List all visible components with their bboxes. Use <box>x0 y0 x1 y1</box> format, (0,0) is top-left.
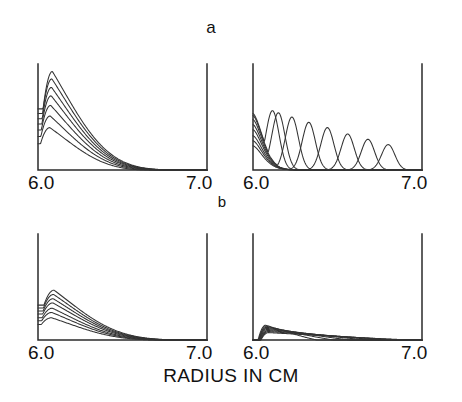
plot-panel-b-left <box>30 228 215 348</box>
panel-frame <box>38 64 207 170</box>
data-curve <box>253 113 422 170</box>
plot-panel-b-right <box>245 228 430 348</box>
data-curve <box>38 290 207 340</box>
data-curve <box>253 117 422 170</box>
xtick-label-a-right-low: 6.0 <box>243 172 269 194</box>
panel-frame <box>253 64 422 170</box>
xtick-label-a-left-high: 7.0 <box>186 172 212 194</box>
data-curve <box>38 79 207 170</box>
xtick-label-a-left-low: 6.0 <box>28 172 54 194</box>
xtick-label-b-right-high: 7.0 <box>401 342 427 364</box>
xtick-label-a-right-high: 7.0 <box>401 172 427 194</box>
xtick-label-b-left-low: 6.0 <box>28 342 54 364</box>
data-curve <box>38 96 207 170</box>
plot-panel-a-right <box>245 58 430 178</box>
data-curve <box>38 71 207 170</box>
xtick-label-b-right-low: 6.0 <box>243 342 269 364</box>
panel-group-label-a: a <box>196 18 226 38</box>
plot-panel-a-left <box>30 58 215 178</box>
figure-root: a b 6.0 7.0 6.0 7.0 6.0 7.0 6.0 7.0 RADI… <box>0 0 462 402</box>
panel-group-label-b: b <box>207 193 237 210</box>
x-axis-title: RADIUS IN CM <box>0 365 462 387</box>
data-curve <box>253 111 422 170</box>
panel-frame <box>253 234 422 340</box>
xtick-label-b-left-high: 7.0 <box>186 342 212 364</box>
panel-frame <box>38 234 207 340</box>
data-curve <box>253 139 422 170</box>
